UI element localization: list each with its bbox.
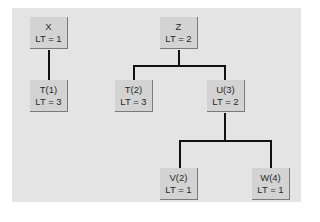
node-lt: LT = 2 (160, 33, 197, 45)
node-label: U(3) (207, 84, 244, 96)
node-label: V(2) (160, 172, 197, 184)
node-z: Z LT = 2 (160, 17, 198, 49)
node-lt: LT = 1 (252, 184, 289, 196)
node-x: X LT = 1 (30, 17, 68, 49)
node-lt: LT = 2 (207, 96, 244, 108)
node-label: T(1) (30, 84, 67, 96)
node-label: X (30, 21, 67, 33)
node-v2: V(2) LT = 1 (160, 168, 198, 200)
node-w4: W(4) LT = 1 (252, 168, 290, 200)
node-lt: LT = 1 (160, 184, 197, 196)
node-u3: U(3) LT = 2 (207, 80, 245, 112)
node-label: W(4) (252, 172, 289, 184)
node-lt: LT = 1 (30, 33, 67, 45)
node-lt: LT = 3 (115, 96, 152, 108)
node-label: T(2) (115, 84, 152, 96)
node-t1: T(1) LT = 3 (30, 80, 68, 112)
node-label: Z (160, 21, 197, 33)
node-lt: LT = 3 (30, 96, 67, 108)
node-t2: T(2) LT = 3 (115, 80, 153, 112)
